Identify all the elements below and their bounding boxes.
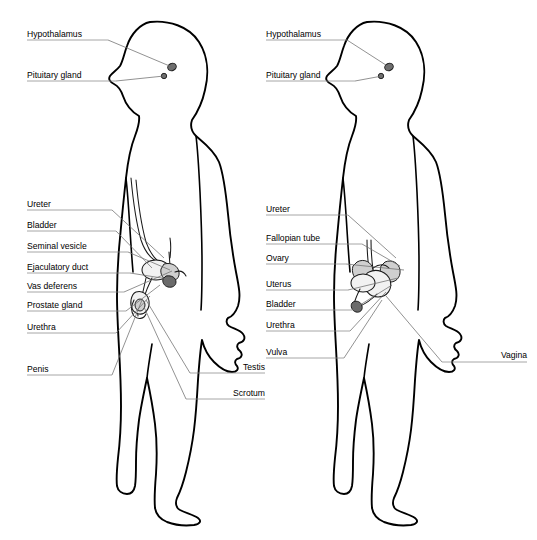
label-ejaculatory-duct: Ejaculatory duct bbox=[27, 262, 89, 272]
label-testis: Testis bbox=[243, 362, 265, 372]
label-ureter: Ureter bbox=[27, 199, 51, 209]
label-ureter-f: Ureter bbox=[266, 204, 290, 214]
anatomy-diagram: HypothalamusPituitary glandUreterBladder… bbox=[0, 0, 537, 540]
label-bladder-f: Bladder bbox=[266, 299, 296, 309]
label-hypothalamus-f: Hypothalamus bbox=[266, 29, 321, 39]
label-seminal-vesicle: Seminal vesicle bbox=[27, 241, 87, 251]
label-uterus: Uterus bbox=[266, 279, 291, 289]
label-prostate-gland: Prostate gland bbox=[27, 300, 83, 310]
male-prostate-organ bbox=[163, 276, 176, 287]
label-pituitary-gland-f: Pituitary gland bbox=[266, 70, 321, 80]
label-urethra: Urethra bbox=[27, 322, 56, 332]
label-vas-deferens: Vas deferens bbox=[27, 281, 77, 291]
label-vagina: Vagina bbox=[501, 350, 527, 360]
label-urethra-f: Urethra bbox=[266, 320, 295, 330]
label-vulva: Vulva bbox=[266, 347, 287, 357]
label-ovary: Ovary bbox=[266, 253, 290, 263]
label-penis: Penis bbox=[27, 364, 49, 374]
female-bladder-organ bbox=[351, 274, 375, 292]
label-fallopian-tube: Fallopian tube bbox=[266, 233, 320, 243]
label-pituitary-gland: Pituitary gland bbox=[27, 70, 82, 80]
label-hypothalamus: Hypothalamus bbox=[27, 29, 82, 39]
label-scrotum: Scrotum bbox=[233, 388, 265, 398]
label-bladder: Bladder bbox=[27, 220, 57, 230]
